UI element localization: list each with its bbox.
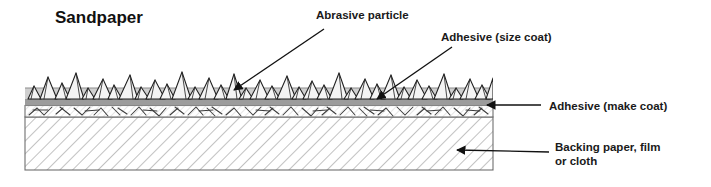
label-backing-line1: Backing paper, film [555,140,660,154]
layer-backing [25,117,493,170]
layer-abrasive-particles [28,72,493,99]
label-backing: Backing paper, film or cloth [555,140,660,168]
arrow-abrasive-particle [234,29,324,90]
label-backing-line2: or cloth [555,154,660,168]
diagram-title: Sandpaper [55,8,143,28]
layer-make-coat [25,100,493,106]
label-adhesive-make-coat: Adhesive (make coat) [549,99,667,113]
label-abrasive-particle: Abrasive particle [316,8,409,22]
layer-backing-fiber-zone [25,106,493,118]
label-adhesive-size-coat: Adhesive (size coat) [441,30,552,44]
